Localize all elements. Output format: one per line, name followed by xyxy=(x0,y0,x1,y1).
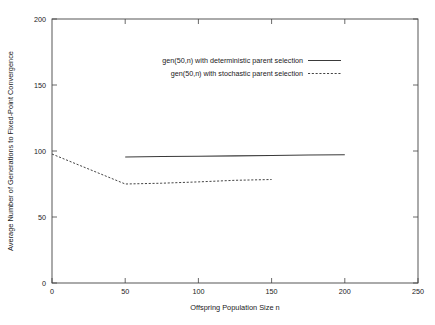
x-tick-label-0: 0 xyxy=(50,287,54,296)
y-tick-label-0: 0 xyxy=(42,279,46,288)
x-tick-label-150: 150 xyxy=(266,287,278,296)
x-tick-label-100: 100 xyxy=(192,287,204,296)
chart-plot-area: 0 50 100 150 200 0 50 100 150 200 250 Of… xyxy=(0,0,435,325)
y-tick-label-150: 150 xyxy=(34,81,46,90)
x-axis-title: Offspring Population Size n xyxy=(190,303,279,312)
y-axis-title: Average Number of Generations to Fixed-P… xyxy=(6,51,15,251)
x-tick-label-50: 50 xyxy=(121,287,129,296)
legend-label-deterministic: gen(50,n) with deterministic parent sele… xyxy=(162,56,303,65)
x-axis-ticks-top xyxy=(125,19,345,24)
series-line-stochastic xyxy=(52,154,272,184)
chart-figure: 0 50 100 150 200 0 50 100 150 200 250 Of… xyxy=(0,0,435,325)
chart-legend: gen(50,n) with deterministic parent sele… xyxy=(162,56,341,78)
x-tick-label-200: 200 xyxy=(339,287,351,296)
legend-label-stochastic: gen(50,n) with stochastic parent selecti… xyxy=(171,69,303,78)
y-tick-label-200: 200 xyxy=(34,15,46,24)
y-tick-label-50: 50 xyxy=(38,213,46,222)
y-axis-ticks-right xyxy=(413,19,418,283)
x-tick-label-250: 250 xyxy=(412,287,424,296)
series-line-deterministic xyxy=(125,155,345,157)
y-tick-label-100: 100 xyxy=(34,147,46,156)
x-axis-ticks xyxy=(52,278,418,283)
y-axis-ticks xyxy=(52,19,57,283)
